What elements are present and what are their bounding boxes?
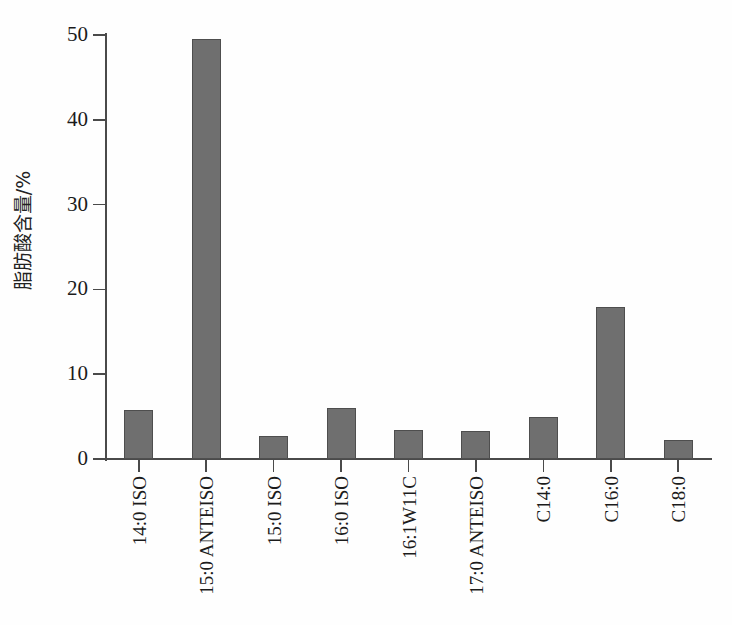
x-tick-label: 16:1W11C bbox=[397, 476, 421, 625]
x-tick bbox=[677, 460, 679, 472]
x-tick bbox=[475, 460, 477, 472]
y-tick-50 bbox=[93, 34, 105, 36]
bar bbox=[664, 440, 693, 459]
x-tick bbox=[273, 460, 275, 472]
x-tick-label: C18:0 bbox=[666, 476, 690, 625]
x-tick-label: 15:0 ISO bbox=[262, 476, 286, 625]
bar bbox=[596, 307, 625, 459]
x-tick-label: 14:0 ISO bbox=[127, 476, 151, 625]
x-tick-label-text: 15:0 ANTEISO bbox=[197, 476, 216, 595]
x-tick bbox=[138, 460, 140, 472]
x-tick bbox=[543, 460, 545, 472]
y-tick-40 bbox=[93, 119, 105, 121]
bar bbox=[529, 417, 558, 459]
x-tick-label-text: 16:0 ISO bbox=[332, 476, 351, 545]
y-tick-label-30: 30 bbox=[42, 194, 88, 215]
bar bbox=[192, 39, 221, 459]
bar bbox=[461, 431, 490, 459]
x-tick-label-text: 14:0 ISO bbox=[129, 476, 148, 545]
x-tick-label: 17:0 ANTEISO bbox=[464, 476, 488, 625]
x-tick-label: 16:0 ISO bbox=[329, 476, 353, 625]
x-tick-label: C14:0 bbox=[531, 476, 555, 625]
x-tick-label-text: C14:0 bbox=[534, 476, 553, 522]
y-tick-label-0: 0 bbox=[42, 448, 88, 469]
y-tick-30 bbox=[93, 204, 105, 206]
bar-chart-figure: 脂肪酸含量/% 01020304050 14:0 ISO15:0 ANTEISO… bbox=[0, 0, 732, 625]
x-tick bbox=[408, 460, 410, 472]
bar bbox=[394, 430, 423, 459]
y-tick-label-50: 50 bbox=[42, 24, 88, 45]
y-tick-label-40: 40 bbox=[42, 109, 88, 130]
x-tick-label-text: 15:0 ISO bbox=[264, 476, 283, 545]
x-tick-label: C16:0 bbox=[599, 476, 623, 625]
x-tick-label-text: C16:0 bbox=[601, 476, 620, 522]
x-tick-label: 15:0 ANTEISO bbox=[194, 476, 218, 625]
x-tick bbox=[205, 460, 207, 472]
y-tick-10 bbox=[93, 373, 105, 375]
bar bbox=[259, 436, 288, 459]
y-tick-label-10: 10 bbox=[42, 363, 88, 384]
bar bbox=[124, 410, 153, 459]
x-tick bbox=[340, 460, 342, 472]
x-tick-label-text: 17:0 ANTEISO bbox=[466, 476, 485, 595]
y-axis-tick-labels: 01020304050 bbox=[20, 0, 88, 625]
y-axis-line bbox=[105, 33, 107, 461]
x-tick-label-text: C18:0 bbox=[669, 476, 688, 522]
x-tick-label-text: 16:1W11C bbox=[399, 476, 418, 559]
y-tick-0 bbox=[93, 458, 105, 460]
y-tick-20 bbox=[93, 289, 105, 291]
y-tick-label-20: 20 bbox=[42, 278, 88, 299]
bar bbox=[327, 408, 356, 459]
x-tick bbox=[610, 460, 612, 472]
